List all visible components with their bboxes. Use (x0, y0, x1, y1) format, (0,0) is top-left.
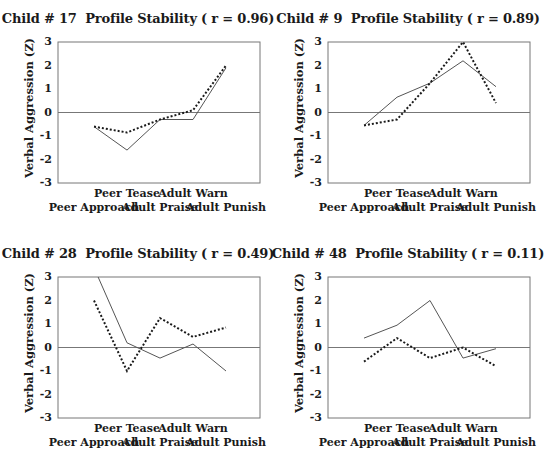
chart-panel-child-48: Child # 48 Profile Stability ( r = 0.11)… (270, 235, 546, 462)
y-tick-label: -1 (306, 129, 322, 142)
y-tick-label: 3 (36, 35, 52, 48)
solid-series-line (364, 301, 496, 359)
y-tick-label: -2 (306, 388, 322, 401)
x-category-label: Peer Tease (94, 422, 160, 435)
y-tick-label: 2 (306, 59, 322, 72)
chart-title: Child # 48 Profile Stability ( r = 0.11) (270, 246, 546, 261)
x-category-label: Adult Punish (186, 201, 266, 214)
dotted-series-line (364, 338, 496, 366)
y-tick-label: 0 (36, 106, 52, 119)
y-tick-label: 1 (306, 317, 322, 330)
chart-panel-child-17: Child # 17 Profile Stability ( r = 0.96)… (0, 0, 276, 231)
y-tick-label: 2 (306, 294, 322, 307)
y-axis-label: Verbal Aggression (Z) (22, 268, 36, 418)
y-axis-label: Verbal Aggression (Z) (22, 33, 36, 183)
chart-panel-child-9: Child # 9 Profile Stability ( r = 0.89)V… (270, 0, 546, 231)
x-category-label: Adult Warn (158, 422, 228, 435)
y-tick-label: 0 (306, 106, 322, 119)
x-category-label: Adult Punish (456, 436, 536, 449)
y-tick-label: 0 (306, 341, 322, 354)
y-tick-label: 2 (36, 59, 52, 72)
y-tick-label: 3 (306, 35, 322, 48)
solid-series-line (94, 68, 226, 150)
y-tick-label: -2 (36, 153, 52, 166)
y-axis-label: Verbal Aggression (Z) (292, 33, 306, 183)
y-tick-label: -1 (36, 129, 52, 142)
x-category-label: Peer Tease (94, 187, 160, 200)
y-tick-label: 1 (36, 82, 52, 95)
x-category-label: Adult Warn (428, 187, 498, 200)
x-category-label: Adult Punish (456, 201, 536, 214)
y-tick-label: 0 (36, 341, 52, 354)
solid-series-line (364, 61, 496, 126)
y-tick-label: -1 (36, 364, 52, 377)
solid-series-line (94, 268, 226, 371)
y-tick-label: -3 (306, 411, 322, 424)
x-category-label: Adult Warn (158, 187, 228, 200)
chart-title: Child # 9 Profile Stability ( r = 0.89) (270, 11, 546, 26)
y-tick-label: -2 (306, 153, 322, 166)
y-tick-label: -1 (306, 364, 322, 377)
chart-title: Child # 17 Profile Stability ( r = 0.96) (0, 11, 276, 26)
x-category-label: Adult Warn (428, 422, 498, 435)
y-tick-label: -3 (36, 411, 52, 424)
x-category-label: Peer Tease (364, 187, 430, 200)
y-tick-label: 1 (36, 317, 52, 330)
y-tick-label: -2 (36, 388, 52, 401)
dotted-series-line (94, 301, 226, 372)
y-tick-label: 1 (306, 82, 322, 95)
x-category-label: Adult Punish (186, 436, 266, 449)
y-tick-label: -3 (36, 176, 52, 189)
chart-panel-child-28: Child # 28 Profile Stability ( r = 0.49)… (0, 235, 276, 462)
x-category-label: Peer Tease (364, 422, 430, 435)
chart-title: Child # 28 Profile Stability ( r = 0.49) (0, 246, 276, 261)
y-axis-label: Verbal Aggression (Z) (292, 268, 306, 418)
y-tick-label: -3 (306, 176, 322, 189)
y-tick-label: 2 (36, 294, 52, 307)
y-tick-label: 3 (36, 270, 52, 283)
y-tick-label: 3 (306, 270, 322, 283)
